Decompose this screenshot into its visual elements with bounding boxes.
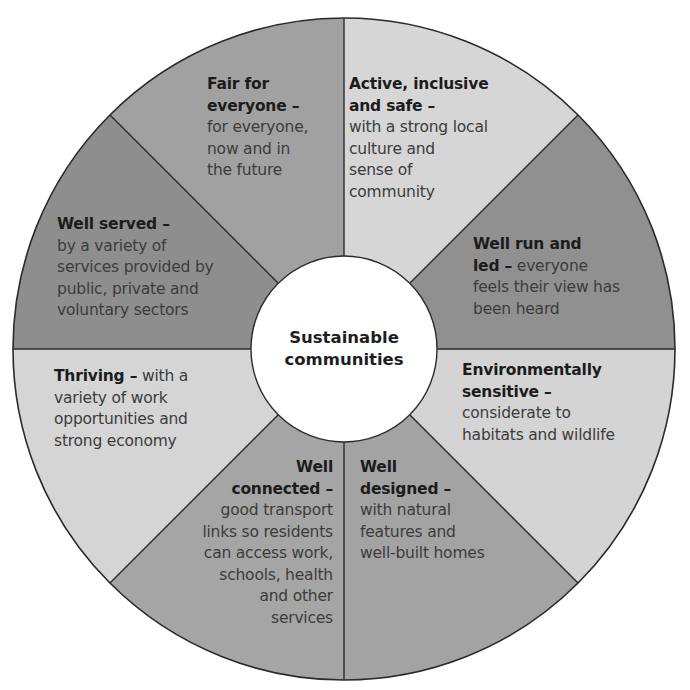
segment-title: Well run and <box>473 234 620 256</box>
segment-title: and safe – <box>349 96 488 118</box>
center-label-line1: Sustainable <box>284 327 403 349</box>
segment-description: habitats and wildlife <box>462 425 615 447</box>
segment-description: variety of work <box>54 388 188 410</box>
segment-description: and other <box>202 586 333 608</box>
text-well-served: Well served – by a variety of services p… <box>57 214 214 322</box>
segment-title: designed – <box>360 479 485 501</box>
text-well-designed: Well designed – with natural features an… <box>360 457 485 565</box>
segment-description: everyone <box>517 257 588 275</box>
segment-title: Thriving – <box>54 367 137 385</box>
segment-title: Well served – <box>57 214 214 236</box>
segment-description: with a <box>142 367 188 385</box>
segment-description: features and <box>360 522 485 544</box>
segment-description: the future <box>207 160 308 182</box>
segment-title: sensitive – <box>462 382 615 404</box>
segment-description: good transport <box>202 500 333 522</box>
segment-title: Well <box>360 457 485 479</box>
segment-title: Well <box>202 457 333 479</box>
segment-description: with natural <box>360 500 485 522</box>
segment-title: Active, inclusive <box>349 74 488 96</box>
segment-description: well-built homes <box>360 543 485 565</box>
center-label: Sustainable communities <box>251 256 437 442</box>
segment-title: Fair for <box>207 74 308 96</box>
text-thriving: Thriving – with a variety of work opport… <box>54 366 188 452</box>
segment-description: considerate to <box>462 403 615 425</box>
segment-title: led – <box>473 257 512 275</box>
text-well-run-and-led: Well run and led – everyone feels their … <box>473 234 620 320</box>
segment-description: links so residents <box>202 522 333 544</box>
segment-description: schools, health <box>202 565 333 587</box>
segment-description: by a variety of <box>57 236 214 258</box>
segment-description: community <box>349 182 488 204</box>
segment-description: public, private and <box>57 279 214 301</box>
segment-description: for everyone, <box>207 117 308 139</box>
segment-description: now and in <box>207 139 308 161</box>
segment-description: feels their view has <box>473 277 620 299</box>
segment-description: sense of <box>349 160 488 182</box>
segment-description: services <box>202 608 333 630</box>
segment-description: can access work, <box>202 543 333 565</box>
segment-description: strong economy <box>54 431 188 453</box>
text-well-connected: Well connected – good transport links so… <box>202 457 333 629</box>
segment-title: connected – <box>202 479 333 501</box>
text-fair-for-everyone: Fair for everyone – for everyone, now an… <box>207 74 308 182</box>
segment-description: with a strong local <box>349 117 488 139</box>
segment-description: opportunities and <box>54 409 188 431</box>
text-environmentally-sensitive: Environmentally sensitive – considerate … <box>462 360 615 446</box>
segment-description: culture and <box>349 139 488 161</box>
segment-description: services provided by <box>57 257 214 279</box>
segment-description: been heard <box>473 299 620 321</box>
text-active-inclusive-safe: Active, inclusive and safe – with a stro… <box>349 74 488 203</box>
segment-title: Environmentally <box>462 360 615 382</box>
segment-title: everyone – <box>207 96 308 118</box>
center-label-line2: communities <box>284 349 403 371</box>
segment-description: voluntary sectors <box>57 300 214 322</box>
